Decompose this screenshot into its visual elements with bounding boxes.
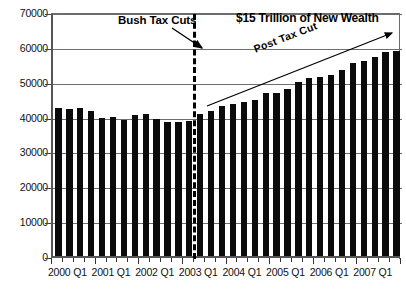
y-tick-label: 60000 [4,42,48,54]
x-tick-mark [389,258,390,262]
x-tick-mark [367,258,368,262]
bar [110,117,116,256]
x-tick-mark [269,258,270,264]
x-tick-label: 2003 Q1 [179,266,218,278]
annotation-bush-tax-cuts: Bush Tax Cuts [118,14,196,26]
x-tick-mark [193,258,194,262]
bar [273,93,279,256]
x-tick-mark [324,258,325,262]
x-tick-mark [356,258,357,264]
bar [164,122,170,256]
x-tick-mark [138,258,139,264]
x-tick-mark [51,258,52,264]
plot-area [51,14,400,258]
y-tick-label: 10000 [4,216,48,228]
bar [393,51,399,256]
x-tick-label: 2007 Q1 [353,266,392,278]
bar [153,119,159,256]
bar [241,102,247,256]
bar [143,114,149,256]
x-tick-label: 2000 Q1 [48,266,87,278]
x-tick-mark [400,258,401,264]
tax-cut-divider-line [193,14,196,259]
x-tick-mark [247,258,248,262]
bar [99,118,105,256]
x-tick-mark [127,258,128,262]
x-tick-mark [160,258,161,262]
x-tick-mark [171,258,172,262]
bars-series [53,12,402,256]
x-tick-mark [291,258,292,262]
x-tick-mark [313,258,314,264]
x-tick-mark [378,258,379,262]
bar [197,114,203,256]
x-tick-mark [182,258,183,264]
bar [382,52,388,256]
bar [339,70,345,256]
bar [186,121,192,256]
y-tick-label: 70000 [4,7,48,19]
y-tick-label: 0 [4,251,48,263]
bar [263,93,269,256]
bar [132,115,138,256]
x-tick-mark [335,258,336,262]
bar [121,120,127,256]
bar [361,61,367,256]
x-tick-label: 2001 Q1 [92,266,131,278]
bar [252,100,258,257]
y-tick-label: 40000 [4,112,48,124]
bar [328,75,334,256]
bar [306,78,312,256]
x-tick-mark [116,258,117,262]
x-tick-mark [226,258,227,264]
bar [175,122,181,256]
x-tick-mark [280,258,281,262]
bar [66,109,72,256]
bar [372,57,378,256]
x-tick-mark [345,258,346,262]
y-axis: 010000200003000040000500006000070000 [0,14,48,258]
bar [77,108,83,256]
bar [295,82,301,256]
x-tick-label: 2005 Q1 [266,266,305,278]
x-tick-mark [236,258,237,262]
x-tick-mark [62,258,63,262]
bar [88,111,94,256]
x-tick-label: 2002 Q1 [135,266,174,278]
bar [230,104,236,256]
x-tick-mark [258,258,259,262]
bar [317,77,323,256]
y-tick-label: 50000 [4,77,48,89]
x-tick-mark [149,258,150,262]
x-tick-label: 2006 Q1 [310,266,349,278]
bar-chart: 010000200003000040000500006000070000 200… [0,0,406,307]
bar [350,63,356,256]
x-axis-labels: 2000 Q12001 Q12002 Q12003 Q12004 Q12005 … [0,266,406,282]
x-tick-mark [73,258,74,262]
bar [219,106,225,256]
x-tick-mark [302,258,303,262]
x-tick-mark [106,258,107,262]
bar [208,111,214,256]
x-tick-mark [95,258,96,264]
x-tick-mark [204,258,205,262]
y-tick-label: 30000 [4,146,48,158]
x-tick-mark [84,258,85,262]
x-tick-label: 2004 Q1 [222,266,261,278]
bar [284,89,290,256]
x-tick-mark [215,258,216,262]
x-axis-ticks [51,258,400,265]
y-tick-label: 20000 [4,181,48,193]
bar [55,108,61,256]
